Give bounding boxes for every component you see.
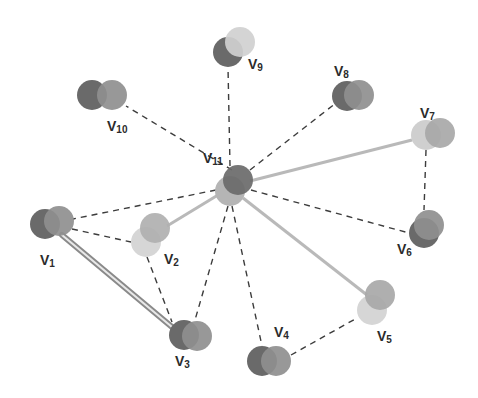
node-label-v3: V3: [175, 353, 190, 370]
node-front-circle: [44, 206, 74, 236]
node-label-v10: V10: [107, 118, 128, 135]
node-v10: [77, 80, 127, 110]
node-label-v9: V9: [248, 56, 263, 73]
edge-v11-v6: [251, 190, 409, 233]
edge-v7-v6: [424, 150, 426, 210]
node-v3: [169, 320, 212, 351]
edge-v11-v9: [228, 67, 230, 166]
edge-v4-v5: [291, 318, 357, 355]
node-label-v8: V8: [334, 63, 349, 80]
node-v5: [357, 280, 395, 325]
node-front-circle: [365, 280, 395, 310]
edge-v11-v1: [73, 190, 216, 219]
node-front-circle: [182, 321, 212, 351]
node-label-v2: V2: [164, 251, 179, 268]
node-front-circle: [140, 213, 170, 243]
node-front-circle: [223, 165, 253, 195]
node-front-circle: [97, 80, 127, 110]
edge-v11-v4: [232, 206, 262, 346]
graph-nodes: [30, 27, 455, 376]
edge-v1-v2: [72, 229, 131, 242]
node-v8: [332, 80, 374, 111]
node-front-circle: [414, 210, 444, 240]
node-label-v4: V4: [274, 324, 289, 341]
node-label-v11: V11: [203, 150, 223, 167]
node-front-circle: [261, 346, 291, 376]
node-v6: [409, 210, 444, 248]
node-label-v7: V7: [420, 105, 435, 122]
node-label-v1: V1: [40, 252, 55, 269]
edge-v11-v3: [195, 206, 228, 320]
edge-v11-v2: [167, 195, 218, 226]
node-front-circle: [344, 80, 374, 110]
node-v1: [30, 206, 74, 239]
node-front-circle: [425, 118, 455, 148]
node-label-v5: V5: [377, 328, 392, 345]
node-front-circle: [225, 27, 255, 57]
node-label-v6: V6: [397, 241, 412, 258]
edge-v11-v7: [250, 140, 412, 181]
edge-v11-v5: [243, 198, 367, 295]
node-v4: [247, 346, 291, 376]
graph-diagram: V1V2V3V4V5V6V7V8V9V10V11: [0, 0, 478, 398]
node-v7: [411, 118, 455, 150]
edge-v11-v8: [250, 103, 336, 170]
